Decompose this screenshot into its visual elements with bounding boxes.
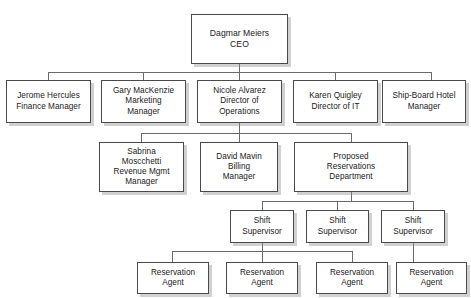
connector-drop-finance (48, 72, 49, 80)
connector-drop-agent-2 (262, 251, 263, 262)
node-shift-supervisor-3[interactable]: Shift Supervisor (381, 210, 445, 243)
connector-drop-supervisor-2 (337, 201, 338, 210)
connector-level3-bus (141, 133, 351, 134)
connector-drop-revenue (141, 133, 142, 142)
node-reservation-agent-1[interactable]: Reservation Agent (137, 262, 209, 294)
connector-drop-supervisor-1 (262, 201, 263, 210)
connector-drop-hotel (431, 72, 432, 80)
connector-drop-supervisor-3 (413, 201, 414, 210)
node-hotel-manager-label: Ship-Board Hotel Manager (392, 91, 455, 111)
node-shift-supervisor-1-label: Shift Supervisor (242, 216, 282, 236)
node-billing-manager[interactable]: David Mavin Billing Manager (200, 142, 278, 192)
node-reservation-agent-3-label: Reservation Agent (330, 268, 374, 288)
connector-drop-it (335, 72, 336, 80)
node-shift-supervisor-1[interactable]: Shift Supervisor (230, 210, 294, 243)
connector-supervisor3-stem (413, 243, 414, 262)
node-director-it-label: Karen Quigley Director of IT (309, 91, 362, 111)
node-reservation-agent-2[interactable]: Reservation Agent (226, 262, 298, 294)
node-revenue-manager-label: Sabrina Moscchetti Revenue Mgmt Manager (113, 147, 169, 188)
node-finance-manager[interactable]: Jerome Hercules Finance Manager (6, 80, 91, 123)
node-reservation-agent-2-label: Reservation Agent (240, 268, 284, 288)
node-revenue-manager[interactable]: Sabrina Moscchetti Revenue Mgmt Manager (99, 142, 184, 192)
connector-drop-marketing (143, 72, 144, 80)
connector-drop-agent-1 (172, 251, 173, 262)
node-ceo-label: Dagmar Meiers CEO (210, 28, 269, 50)
node-director-it[interactable]: Karen Quigley Director of IT (293, 80, 378, 123)
connector-drop-agent-3 (352, 251, 353, 262)
node-director-operations-label: Nicole Alvarez Director of Operations (213, 86, 266, 117)
node-hotel-manager[interactable]: Ship-Board Hotel Manager (382, 80, 466, 123)
connector-drop-billing (239, 133, 240, 142)
node-proposed-department[interactable]: Proposed Reservations Department (294, 142, 408, 192)
node-shift-supervisor-2-label: Shift Supervisor (318, 216, 358, 236)
node-reservation-agent-3[interactable]: Reservation Agent (316, 262, 388, 294)
node-ceo[interactable]: Dagmar Meiers CEO (191, 14, 288, 64)
connector-drop-operations (239, 72, 240, 80)
node-director-operations[interactable]: Nicole Alvarez Director of Operations (197, 80, 282, 123)
node-shift-supervisor-3-label: Shift Supervisor (393, 216, 433, 236)
org-chart: Dagmar Meiers CEO Jerome Hercules Financ… (0, 0, 471, 298)
node-shift-supervisor-2[interactable]: Shift Supervisor (306, 210, 369, 243)
node-reservation-agent-4-label: Reservation Agent (409, 268, 453, 288)
connector-drop-proposed (351, 133, 352, 142)
node-marketing-manager[interactable]: Gary MacKenzie Marketing Manager (101, 80, 186, 123)
node-reservation-agent-4[interactable]: Reservation Agent (396, 262, 467, 294)
node-reservation-agent-1-label: Reservation Agent (151, 268, 195, 288)
node-finance-manager-label: Jerome Hercules Finance Manager (16, 91, 80, 111)
node-marketing-manager-label: Gary MacKenzie Marketing Manager (113, 86, 174, 117)
node-proposed-department-label: Proposed Reservations Department (327, 152, 375, 183)
node-billing-manager-label: David Mavin Billing Manager (216, 152, 262, 183)
